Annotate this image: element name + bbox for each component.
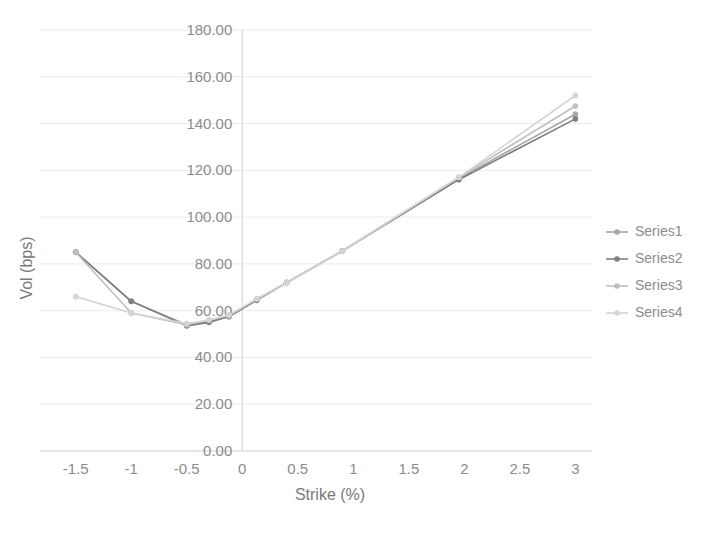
series-marker	[129, 310, 134, 315]
chart-canvas: 180.00160.00140.00120.00100.0080.0060.00…	[0, 0, 707, 534]
data-series	[73, 116, 578, 328]
legend-item-label: Series1	[635, 223, 683, 239]
legend-item-label: Series2	[635, 250, 683, 266]
y-axis-tick-label: 180.00	[186, 21, 232, 38]
x-axis-tick-label: 0.5	[287, 460, 308, 477]
series-marker	[206, 317, 211, 322]
series-marker	[573, 116, 578, 121]
x-axis-title: Strike (%)	[295, 486, 365, 503]
series-line	[76, 106, 576, 325]
legend-marker-icon	[614, 229, 620, 235]
series-marker	[73, 250, 78, 255]
x-axis-tick-label: 0	[238, 460, 246, 477]
x-axis-tick-label: -1.5	[63, 460, 89, 477]
chart-container: 180.00160.00140.00120.00100.0080.0060.00…	[0, 0, 707, 534]
series-line	[76, 119, 576, 326]
series-marker	[184, 321, 189, 326]
x-axis-tick-label: -0.5	[174, 460, 200, 477]
legend-item[interactable]: Series3	[606, 277, 683, 293]
y-axis-tick-label: 140.00	[186, 115, 232, 132]
legend-item[interactable]: Series4	[606, 304, 683, 320]
series-marker	[254, 296, 259, 301]
x-axis-tick-label: 1	[349, 460, 357, 477]
y-axis-tick-labels: 180.00160.00140.00120.00100.0080.0060.00…	[186, 21, 232, 459]
x-axis-tick-label: 2	[460, 460, 468, 477]
y-axis-tick-label: 100.00	[186, 208, 232, 225]
gridlines	[40, 30, 592, 451]
series-marker	[226, 313, 231, 318]
x-axis-tick-label: 3	[571, 460, 579, 477]
axis-lines	[40, 30, 592, 451]
y-axis-tick-label: 80.00	[195, 255, 233, 272]
data-series	[73, 93, 578, 326]
data-series	[73, 112, 578, 328]
y-axis-tick-label: 160.00	[186, 68, 232, 85]
x-axis-tick-label: 1.5	[398, 460, 419, 477]
legend-marker-icon	[614, 256, 620, 262]
series-marker	[129, 299, 134, 304]
chart-legend: Series1Series2Series3Series4	[606, 223, 683, 320]
legend-marker-icon	[614, 310, 620, 316]
x-axis-tick-label: -1	[125, 460, 138, 477]
y-axis-tick-label: 0.00	[203, 442, 232, 459]
y-axis-tick-label: 120.00	[186, 161, 232, 178]
series-marker	[573, 103, 578, 108]
legend-item[interactable]: Series2	[606, 250, 683, 266]
series-line	[76, 114, 576, 325]
series-marker	[573, 93, 578, 98]
legend-item-label: Series4	[635, 304, 683, 320]
y-axis-tick-label: 20.00	[195, 395, 233, 412]
series-marker	[456, 175, 461, 180]
data-series	[73, 103, 578, 327]
y-axis-tick-label: 40.00	[195, 348, 233, 365]
x-axis-tick-label: 2.5	[509, 460, 530, 477]
series-marker	[73, 294, 78, 299]
data-series-group	[73, 93, 578, 329]
legend-item-label: Series3	[635, 277, 683, 293]
series-marker	[284, 280, 289, 285]
legend-item[interactable]: Series1	[606, 223, 683, 239]
x-axis-tick-labels: -1.5-1-0.500.511.522.53	[63, 460, 580, 477]
series-line	[76, 95, 576, 323]
series-marker	[340, 248, 345, 253]
legend-marker-icon	[614, 283, 620, 289]
y-axis-title: Vol (bps)	[18, 236, 35, 299]
